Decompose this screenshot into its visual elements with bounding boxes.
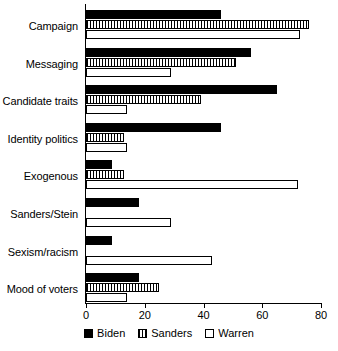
bar-warren — [86, 256, 212, 265]
legend-label: Biden — [97, 328, 125, 339]
category-label: Exogenous — [24, 171, 78, 182]
bar-group — [86, 85, 321, 115]
bar-biden — [86, 10, 221, 19]
bar-sanders — [86, 58, 236, 67]
bar-biden — [86, 48, 251, 57]
bar-biden — [86, 123, 221, 132]
x-axis-tick — [321, 303, 322, 308]
category-label: Sanders/Stein — [10, 209, 78, 220]
bar-biden — [86, 198, 139, 207]
bar-warren — [86, 293, 127, 302]
legend-item-biden: Biden — [84, 328, 125, 339]
category-label: Messaging — [26, 59, 78, 70]
bar-sanders — [86, 133, 124, 142]
legend-item-warren: Warren — [205, 328, 254, 339]
x-axis-tick — [86, 303, 87, 308]
bar-warren — [86, 68, 171, 77]
x-axis-tick-label: 60 — [256, 310, 268, 321]
category-label: Sexism/racism — [8, 247, 78, 258]
bar-biden — [86, 236, 112, 245]
bar-sanders — [86, 283, 159, 292]
legend-item-sanders: Sanders — [138, 328, 192, 339]
legend-label: Warren — [218, 328, 254, 339]
plot-area — [86, 6, 321, 301]
category-label: Identity politics — [8, 134, 78, 145]
bar-biden — [86, 85, 277, 94]
bar-sanders — [86, 170, 124, 179]
category-axis-labels: CampaignMessagingCandidate traitsIdentit… — [0, 6, 82, 301]
x-axis-tick-label: 80 — [315, 310, 327, 321]
bar-group — [86, 273, 321, 303]
category-label: Campaign — [29, 21, 78, 32]
bar-group — [86, 160, 321, 190]
bar-group — [86, 48, 321, 78]
x-axis-tick — [204, 303, 205, 308]
bar-warren — [86, 105, 127, 114]
x-axis-tick-label: 0 — [83, 310, 89, 321]
bar-group — [86, 236, 321, 266]
legend-label: Sanders — [151, 328, 192, 339]
bar-warren — [86, 30, 300, 39]
bar-warren — [86, 218, 171, 227]
bar-group — [86, 198, 321, 228]
bar-warren — [86, 143, 127, 152]
bar-sanders — [86, 95, 201, 104]
bar-sanders — [86, 20, 309, 29]
x-axis-tick — [145, 303, 146, 308]
category-label: Mood of voters — [7, 284, 78, 295]
bar-group — [86, 10, 321, 40]
x-axis-tick-label: 40 — [197, 310, 209, 321]
bar-chart: CampaignMessagingCandidate traitsIdentit… — [0, 0, 338, 351]
bar-biden — [86, 160, 112, 169]
bar-group — [86, 123, 321, 153]
solid-black-swatch — [84, 329, 93, 338]
open-swatch — [205, 329, 214, 338]
category-label: Candidate traits — [3, 96, 78, 107]
hatched-swatch — [138, 329, 147, 338]
chart-legend: BidenSandersWarren — [0, 328, 338, 339]
bar-biden — [86, 273, 139, 282]
x-axis-tick-label: 20 — [139, 310, 151, 321]
bar-warren — [86, 180, 298, 189]
x-axis-tick — [262, 303, 263, 308]
